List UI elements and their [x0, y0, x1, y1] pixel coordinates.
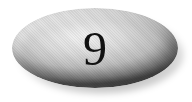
stage: 9 [0, 0, 192, 102]
number-9-button[interactable]: 9 [12, 8, 178, 88]
button-label: 9 [12, 8, 178, 88]
